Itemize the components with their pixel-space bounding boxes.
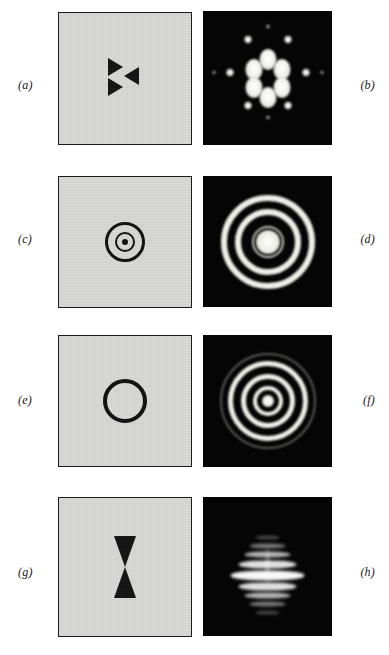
three-triangle-pinwheel-icon [95,54,155,104]
panel-label-h: (h) [360,565,375,580]
panel-label-a: (a) [18,78,33,93]
vertical-bowtie-icon [114,536,136,598]
panel-label-c: (c) [18,232,32,247]
panel-label-e: (e) [18,393,32,408]
panel-label-f: (f) [363,393,375,408]
sixfold-rosette-icon [203,11,332,145]
panel-label-g: (g) [18,565,33,580]
aperture-panel-g [58,497,192,637]
panel-label-d: (d) [360,232,375,247]
figure-row-4: (g) (h) [0,485,389,655]
horizontal-fringe-bands-icon [203,497,332,636]
double-annulus-icon [102,219,148,265]
concentric-rings-wide-icon [213,187,323,297]
concentric-rings-narrow-icon [220,353,316,449]
diffraction-panel-b [203,11,332,145]
panel-label-b: (b) [360,78,375,93]
aperture-panel-a [58,12,192,145]
diffraction-figure: (a) [0,0,389,655]
single-annulus-icon [103,379,147,423]
figure-row-2: (c) (d) [0,160,389,320]
diffraction-panel-f [203,335,332,467]
figure-row-1: (a) [0,0,389,155]
aperture-panel-c [58,176,192,308]
aperture-panel-e [58,335,192,467]
diffraction-panel-d [203,176,332,307]
figure-row-3: (e) (f) [0,325,389,480]
diffraction-panel-h [203,497,332,636]
